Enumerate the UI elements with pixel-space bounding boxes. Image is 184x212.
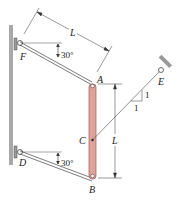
angle-label-top: 30° [61,50,74,60]
label-A: A [96,74,104,85]
label-B: B [89,184,95,195]
pin-B [91,174,95,178]
angle-arrow-bottom [57,153,60,164]
dimension-label-bar: L [111,135,118,146]
slope-run-label: 1 [134,103,139,113]
statics-figure: 30° 30° L 1 1 L F D A B C E [0,0,184,212]
label-E: E [157,76,164,87]
diagram-canvas: 30° 30° L 1 1 L F D A B C E [0,0,184,212]
bar-AB [89,84,96,179]
angle-label-bottom: 30° [61,158,74,168]
link-DB [20,151,92,181]
dimension-label-top: L [69,27,76,38]
support-E [159,55,173,73]
wall [9,25,13,165]
dimension-FA [24,8,112,72]
label-D: D [18,157,27,168]
angle-arrow-top [57,44,60,57]
support-bracket-F [14,38,17,50]
label-F: F [19,51,27,62]
slope-rise-label: 1 [145,90,150,100]
support-bracket-D [14,146,17,158]
label-C: C [79,135,86,146]
link-FA [20,42,92,85]
pin-A [91,84,95,88]
